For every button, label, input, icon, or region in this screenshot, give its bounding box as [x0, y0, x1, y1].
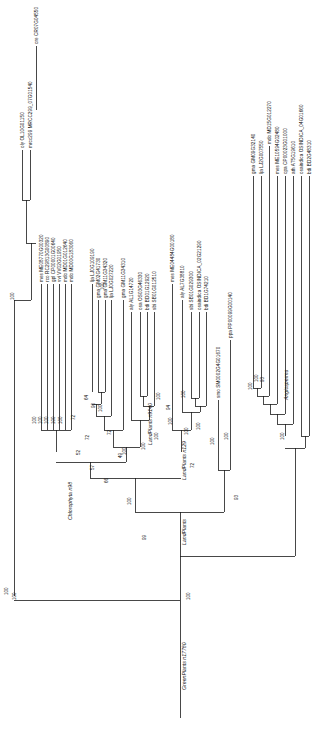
leaf-label: osa OS03G46330 [138, 271, 143, 310]
clade-label: Angiosperms [283, 369, 289, 401]
bootstrap-value: 52 [76, 449, 81, 455]
clade-label: Chlorophyta n98 [67, 482, 73, 520]
leaf-label: vvi VV02G01950 [57, 246, 62, 282]
leaf-label: smo SM0002G4G01670 [216, 346, 221, 398]
leaf-label: gma GM11G34320 [103, 258, 108, 298]
leaf-label: lja LJ2G007550 [259, 140, 264, 174]
bootstrap-value: 100 [196, 422, 201, 430]
bootstrap-value: 100 [141, 442, 146, 450]
clade-label-group: Chlorophyta n98LandPlants n9140LandPlant… [67, 369, 289, 690]
bootstrap-value: 100 [32, 416, 37, 424]
bootstrap-value: 100 [181, 390, 186, 398]
bootstrap-value: 64 [84, 394, 89, 400]
bootstrap-label-group: 1001001001001001001001006490100727272495… [4, 282, 285, 600]
bootstrap-value: 94 [166, 404, 171, 410]
tree-canvas: cre CR07G04550oly OL10G01150mrcc299 MRCC… [0, 0, 328, 742]
bootstrap-value: 93 [260, 376, 265, 382]
bootstrap-value: 100 [280, 432, 285, 440]
bootstrap-value: 100 [58, 416, 63, 424]
leaf-label: bdi BD01G12920 [145, 273, 150, 310]
bootstrap-value: 90 [91, 402, 96, 408]
leaf-label: rco RC29813G00890 [45, 237, 50, 282]
leaf-label: mes ME08770G00320 [39, 234, 44, 282]
bootstrap-value: 100 [184, 427, 189, 435]
bootstrap-value: 100 [51, 416, 56, 424]
leaf-label: mrcc299 MRCC299_07G01540 [28, 81, 33, 148]
bootstrap-value: 100 [38, 416, 43, 424]
bootstrap-value: 72 [71, 414, 76, 420]
leaf-label: cre CR07G04550 [34, 7, 39, 44]
bootstrap-value: 66 [104, 477, 109, 483]
bootstrap-value: 100 [248, 382, 253, 390]
leaf-label: mdo MD15G012270 [267, 101, 272, 144]
bootstrap-value: 100 [224, 432, 229, 440]
bootstrap-value: 100 [4, 587, 9, 595]
leaf-label: ath AT5G19610 [291, 141, 296, 174]
leaf-label: bdi BD1G74210 [204, 276, 209, 310]
leaf-label: sbi SB01G012510 [152, 271, 157, 310]
bootstrap-value: 100 [210, 437, 215, 445]
leaf-label: gma GM11G34310 [121, 258, 126, 298]
leaf-label-group: cre CR07G04550oly OL10G01150mrcc299 MRCC… [20, 7, 312, 398]
bootstrap-value: 100 [156, 392, 161, 400]
bootstrap-value: 100 [10, 292, 15, 300]
bootstrap-value: 100 [100, 282, 105, 290]
bootstrap-value: 100 [168, 417, 173, 425]
leaf-label: oly OL10G01150 [20, 112, 25, 148]
bootstrap-value: 72 [85, 434, 90, 440]
leaf-label: aly AL7G38810 [180, 265, 185, 298]
bootstrap-value: 100 [186, 592, 191, 600]
leaf-label: bdi BD2G48310 [307, 140, 312, 174]
leaf-label: gpl CP00001G00640 [51, 237, 56, 282]
leaf-label: osaindica OSINDICA_02G21290 [197, 240, 202, 310]
leaf-label: mdo MD01G012640 [63, 239, 68, 282]
leaf-label: cpa CP00023G01000 [283, 128, 288, 174]
bootstrap-value: 100 [12, 592, 17, 600]
leaf-label: lja LJ0G109190 [90, 248, 95, 282]
leaf-label: mdo MD00G183060 [69, 239, 74, 282]
leaf-label: mes ME04484G00180 [170, 234, 175, 282]
bootstrap-value: 72 [190, 462, 195, 468]
phylogenetic-tree-figure: cre CR07G04550oly OL10G01150mrcc299 MRCC… [0, 0, 328, 742]
bootstrap-value: 99 [142, 534, 147, 540]
leaf-label: sbi SB01G029300 [189, 271, 194, 310]
bootstrap-value: 72 [107, 429, 112, 435]
bootstrap-value: 100 [254, 374, 259, 382]
clade-label: LandPlants [181, 519, 187, 545]
leaf-label: lja LJ0G027220 [109, 264, 114, 298]
leaf-label: aly AL1G14720 [129, 277, 134, 310]
bootstrap-value: 100 [122, 447, 127, 455]
bootstrap-value: 100 [44, 416, 49, 424]
leaf-label: ppa PP00099G00140 [228, 292, 233, 338]
bootstrap-value: 93 [234, 494, 239, 500]
bootstrap-value: 100 [154, 432, 159, 440]
bootstrap-value: 57 [90, 464, 95, 470]
clade-label: GreenPlants n17780 [181, 642, 187, 690]
leaf-label: gma GM02G41730 [96, 257, 101, 298]
clade-label: LandPlants n129 [181, 441, 187, 480]
clade-label: LandPlants n9140 [147, 403, 153, 445]
leaf-label: gma GM09G32140 [251, 133, 256, 174]
bootstrap-value: 100 [98, 404, 103, 412]
leaf-label: osaindica OSINDICA_04G01660 [299, 104, 304, 174]
leaf-label: mes ME10594G02480 [275, 126, 280, 174]
bootstrap-value: 100 [127, 497, 132, 505]
